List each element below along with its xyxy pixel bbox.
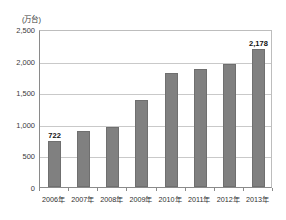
x-axis-category-label: 2009年 bbox=[129, 194, 152, 204]
bar bbox=[252, 49, 265, 187]
bar bbox=[223, 64, 236, 187]
x-axis-category-label: 2006年 bbox=[42, 194, 65, 204]
x-axis-tick-mark bbox=[272, 188, 273, 191]
bar bbox=[135, 100, 148, 187]
x-axis-tick-mark bbox=[39, 188, 40, 191]
bar bbox=[165, 73, 178, 187]
x-axis-category-label: 2008年 bbox=[100, 194, 123, 204]
y-axis-tick-label: 500 bbox=[22, 152, 35, 161]
bar bbox=[194, 69, 207, 187]
x-axis-category-label: 2013年 bbox=[246, 194, 269, 204]
x-axis-tick-mark bbox=[97, 188, 98, 191]
y-axis-tick-label: 0 bbox=[31, 184, 35, 193]
x-axis-category-label: 2010年 bbox=[159, 194, 182, 204]
x-axis-category-label: 2012年 bbox=[217, 194, 240, 204]
bar-chart: (万台) 7222,178 05001,0001,5002,0002,500 2… bbox=[0, 0, 286, 220]
bar-value-label: 722 bbox=[48, 131, 61, 140]
x-axis-tick-mark bbox=[156, 188, 157, 191]
bar bbox=[106, 127, 119, 187]
x-axis-tick-mark bbox=[126, 188, 127, 191]
bar-series: 7222,178 bbox=[40, 31, 271, 187]
x-axis-category-label: 2011年 bbox=[188, 194, 210, 204]
y-axis-tick-label: 2,000 bbox=[16, 57, 35, 66]
bar bbox=[77, 131, 90, 187]
y-axis-tick-label: 2,500 bbox=[16, 26, 35, 35]
y-axis-tick-label: 1,500 bbox=[16, 89, 35, 98]
x-axis-tick-mark bbox=[214, 188, 215, 191]
x-axis-category-label: 2007年 bbox=[71, 194, 94, 204]
plot-area: 7222,178 bbox=[39, 30, 272, 188]
x-axis-tick-mark bbox=[185, 188, 186, 191]
x-axis-tick-mark bbox=[68, 188, 69, 191]
bar-value-label: 2,178 bbox=[249, 39, 268, 48]
x-axis: 2006年2007年2008年2009年2010年2011年2012年2013年 bbox=[39, 188, 272, 218]
y-axis-unit-label: (万台) bbox=[22, 13, 41, 24]
x-axis-tick-mark bbox=[243, 188, 244, 191]
y-axis-tick-label: 1,000 bbox=[16, 120, 35, 129]
bar bbox=[48, 141, 61, 187]
